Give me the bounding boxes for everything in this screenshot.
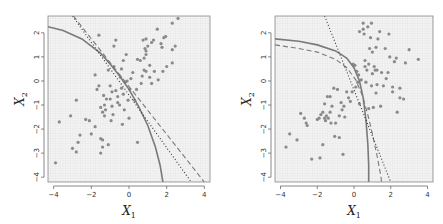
data-point bbox=[88, 119, 91, 122]
data-point bbox=[111, 113, 114, 116]
data-point bbox=[303, 117, 306, 120]
data-point bbox=[367, 63, 370, 66]
data-point bbox=[386, 71, 389, 74]
y-tick-label: 2 bbox=[33, 31, 41, 35]
data-point bbox=[157, 78, 160, 81]
y-tick-label: −4 bbox=[33, 171, 41, 182]
data-point bbox=[336, 88, 339, 91]
data-point bbox=[376, 37, 379, 40]
data-point bbox=[370, 84, 373, 87]
data-point bbox=[120, 87, 123, 90]
data-point bbox=[404, 61, 407, 64]
data-point bbox=[363, 65, 366, 68]
data-point bbox=[345, 90, 348, 93]
data-point bbox=[97, 34, 100, 37]
data-point bbox=[343, 115, 346, 118]
data-point bbox=[380, 71, 383, 74]
data-point bbox=[114, 89, 117, 92]
data-point bbox=[375, 69, 378, 72]
data-point bbox=[153, 70, 156, 73]
data-point bbox=[146, 45, 149, 48]
data-point bbox=[99, 152, 102, 155]
data-point bbox=[284, 146, 287, 149]
data-point bbox=[140, 82, 143, 85]
y-axis: −4−3−2−1012 bbox=[260, 31, 271, 183]
data-point bbox=[99, 106, 102, 109]
data-point bbox=[105, 97, 108, 100]
data-point bbox=[372, 106, 375, 109]
data-point bbox=[114, 39, 117, 42]
data-point bbox=[136, 58, 139, 61]
x-tick-label: −4 bbox=[275, 191, 286, 199]
data-point bbox=[329, 111, 332, 114]
data-point bbox=[396, 111, 399, 114]
data-point bbox=[144, 53, 147, 56]
data-point bbox=[417, 58, 420, 61]
data-point bbox=[321, 111, 324, 114]
data-point bbox=[54, 161, 57, 164]
data-point bbox=[104, 108, 107, 111]
data-point bbox=[369, 36, 372, 39]
data-point bbox=[142, 39, 145, 42]
data-point bbox=[384, 47, 387, 50]
data-point bbox=[69, 114, 72, 117]
data-point bbox=[338, 114, 341, 117]
data-point bbox=[382, 84, 385, 87]
data-point bbox=[171, 22, 174, 25]
y-tick-label: −1 bbox=[33, 100, 41, 110]
x-tick-label: 2 bbox=[389, 191, 393, 199]
data-point bbox=[110, 119, 113, 122]
data-point bbox=[408, 48, 411, 51]
data-point bbox=[103, 114, 106, 117]
x-axis: −4−2024 bbox=[48, 186, 207, 199]
data-point bbox=[159, 42, 162, 45]
data-point bbox=[354, 85, 357, 88]
data-point bbox=[393, 60, 396, 63]
y-tick-label: 2 bbox=[260, 31, 268, 35]
data-point bbox=[90, 132, 93, 135]
data-point bbox=[174, 45, 177, 48]
x-axis-label: X1 bbox=[121, 204, 136, 220]
y-tick-label: −4 bbox=[260, 171, 268, 182]
data-point bbox=[334, 122, 337, 125]
data-point bbox=[362, 28, 365, 31]
y-axis-label: X2 bbox=[240, 92, 256, 107]
data-point bbox=[97, 84, 100, 87]
data-point bbox=[351, 90, 354, 93]
data-point bbox=[144, 37, 147, 40]
data-point bbox=[161, 70, 164, 73]
data-point bbox=[366, 25, 369, 28]
data-point bbox=[160, 46, 163, 49]
data-point bbox=[299, 112, 302, 115]
data-point bbox=[363, 59, 366, 62]
data-point bbox=[374, 46, 377, 49]
data-point bbox=[152, 39, 155, 42]
data-point bbox=[385, 77, 388, 80]
left-panel: −4−2024−4−3−2−1012X1X2 bbox=[13, 16, 210, 220]
x-tick-label: 0 bbox=[352, 191, 356, 199]
data-point bbox=[374, 91, 377, 94]
data-point bbox=[75, 99, 78, 102]
data-point bbox=[94, 125, 97, 128]
data-point bbox=[110, 90, 113, 93]
data-point bbox=[341, 153, 344, 156]
x-tick-label: 2 bbox=[164, 191, 168, 199]
data-point bbox=[122, 93, 125, 96]
data-point bbox=[103, 103, 106, 106]
data-point bbox=[141, 75, 144, 78]
data-point bbox=[288, 132, 291, 135]
data-point bbox=[324, 119, 327, 122]
x-tick-label: −4 bbox=[48, 191, 59, 199]
data-point bbox=[144, 49, 147, 52]
data-point bbox=[75, 150, 78, 153]
data-point bbox=[375, 83, 378, 86]
data-point bbox=[125, 53, 128, 56]
data-point bbox=[116, 95, 119, 98]
data-point bbox=[349, 100, 352, 103]
y-tick-label: −1 bbox=[260, 100, 268, 110]
data-point bbox=[329, 95, 332, 98]
data-point bbox=[371, 72, 374, 75]
data-point bbox=[321, 143, 324, 146]
data-point bbox=[365, 69, 368, 72]
right-panel: −4−2024−4−3−2−1012X1X2 bbox=[240, 16, 433, 220]
